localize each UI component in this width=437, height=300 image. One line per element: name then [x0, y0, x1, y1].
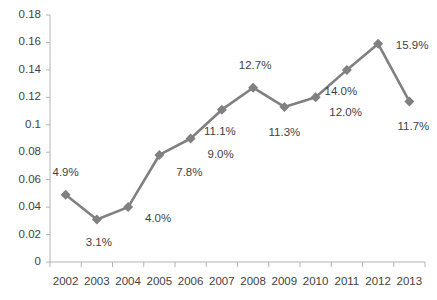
x-axis-tick-label: 2011: [335, 276, 360, 288]
y-axis-tick-label: 0.02: [0, 229, 41, 241]
x-axis-tick-label: 2009: [272, 276, 298, 288]
data-point-label: 12.0%: [329, 108, 362, 120]
x-axis-tick-label: 2005: [147, 276, 173, 288]
data-point-label: 9.0%: [208, 149, 234, 161]
series-markers: [61, 39, 415, 225]
data-point-label: 4.0%: [145, 213, 171, 225]
data-point-label: 3.1%: [86, 238, 112, 250]
x-axis-tick-label: 2003: [84, 276, 110, 288]
data-point-label: 11.3%: [268, 127, 300, 139]
data-point-label: 14.0%: [325, 86, 358, 98]
data-point-label: 12.7%: [239, 60, 272, 72]
y-axis-tick-label: 0.04: [0, 201, 41, 213]
x-axis-tick-label: 2010: [303, 276, 329, 288]
x-axis-tick-label: 2002: [53, 276, 79, 288]
y-axis-tick-label: 0.14: [0, 64, 41, 76]
y-axis-tick-label: 0.12: [0, 92, 41, 104]
y-axis-tick-label: 0.08: [0, 146, 41, 158]
data-point-label: 11.1%: [204, 126, 236, 138]
x-axis-ticks: [50, 262, 425, 267]
y-axis-ticks: [46, 15, 50, 262]
x-axis-tick-label: 2008: [240, 276, 266, 288]
line-chart: 00.020.040.060.080.10.120.140.160.18 200…: [0, 0, 437, 300]
data-point-label: 11.7%: [397, 122, 429, 134]
series-line: [66, 44, 410, 220]
x-axis-tick-label: 2012: [365, 276, 391, 288]
x-axis-tick-label: 2007: [209, 276, 235, 288]
data-point-label: 4.9%: [53, 167, 79, 179]
x-axis-tick-label: 2013: [397, 276, 423, 288]
y-axis-tick-label: 0.18: [0, 9, 41, 21]
x-axis-tick-label: 2004: [115, 276, 141, 288]
data-point-label: 15.9%: [396, 40, 429, 52]
y-axis-tick-label: 0.06: [0, 174, 41, 186]
x-axis-tick-label: 2006: [178, 276, 204, 288]
y-axis-tick-label: 0.1: [0, 119, 41, 131]
data-point-marker: [404, 96, 414, 106]
y-axis-tick-label: 0: [0, 256, 41, 268]
data-point-label: 7.8%: [176, 167, 202, 179]
y-axis-tick-label: 0.16: [0, 37, 41, 49]
